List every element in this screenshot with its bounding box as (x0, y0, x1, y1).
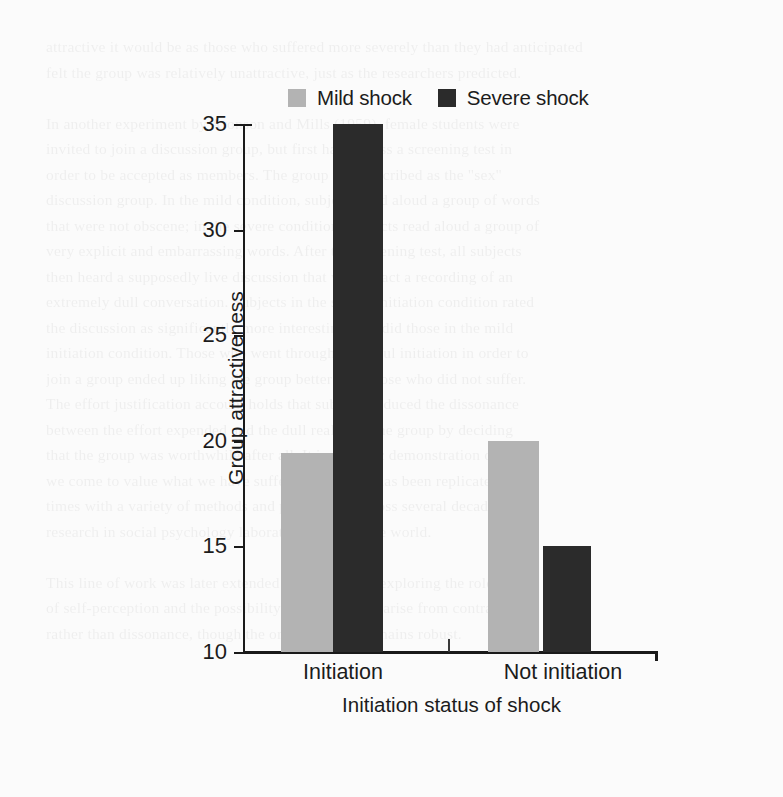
y-axis-title: Group attractiveness (224, 291, 248, 485)
legend-swatch-mild-shock (288, 89, 306, 107)
x-category-label-not-initiation: Not initiation (478, 660, 648, 685)
y-tick-10: 10 (234, 652, 243, 654)
x-axis-title: Initiation status of shock (60, 693, 783, 717)
y-tick-15: 15 (234, 546, 243, 548)
legend-label-severe-shock: Severe shock (467, 86, 589, 110)
x-axis-right-cap (655, 651, 658, 661)
chart-legend: Mild shock Severe shock (288, 86, 589, 110)
bar-not-initiation-severe (543, 546, 591, 652)
y-tick-label-30: 30 (203, 217, 227, 243)
x-category-label-initiation: Initiation (283, 660, 403, 685)
legend-label-mild-shock: Mild shock (317, 86, 412, 110)
y-tick-35: 35 (234, 124, 243, 126)
bar-not-initiation-mild (488, 441, 539, 652)
y-tick-label-10: 10 (203, 639, 227, 665)
bar-chart-figure: Mild shock Severe shock 35 30 25 20 15 1… (0, 0, 783, 797)
legend-swatch-severe-shock (438, 89, 456, 107)
y-tick-label-35: 35 (203, 111, 227, 137)
bar-initiation-mild (281, 453, 333, 652)
legend-item-mild-shock: Mild shock (288, 86, 412, 110)
y-tick-label-15: 15 (203, 533, 227, 559)
legend-item-severe-shock: Severe shock (438, 86, 589, 110)
plot-area: 35 30 25 20 15 10 Group attractiveness (243, 124, 657, 652)
y-tick-30: 30 (234, 230, 243, 232)
bar-initiation-severe (333, 124, 383, 652)
